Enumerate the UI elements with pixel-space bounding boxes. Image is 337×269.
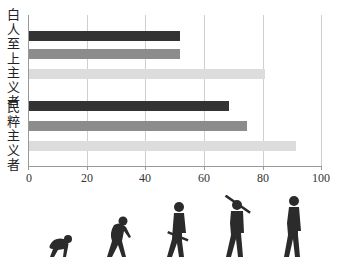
x-tick — [263, 166, 264, 170]
x-tick — [321, 166, 322, 170]
x-tick-label: 20 — [81, 171, 93, 186]
x-tick — [204, 166, 205, 170]
group-label-populists: 民粹主义者 — [6, 100, 20, 173]
bar-group2-series3 — [29, 141, 296, 151]
y-axis — [28, 15, 29, 167]
bar-group1-series2 — [29, 49, 180, 59]
bar-chart: 白人至上主义者 民粹主义者 0 20 40 60 80 100 — [0, 0, 337, 190]
x-tick-label: 100 — [312, 171, 330, 186]
bar-group1-series3 — [29, 69, 265, 79]
hominid-with-club-icon — [223, 195, 253, 259]
x-tick — [145, 166, 146, 170]
x-axis — [28, 166, 322, 167]
bar-group1-series1 — [29, 31, 180, 41]
x-tick — [28, 166, 29, 170]
x-tick-label: 0 — [26, 171, 32, 186]
bar-group2-series2 — [29, 121, 247, 131]
group-label-white-supremacists: 白人至上主义者 — [6, 8, 20, 110]
evolution-illustration — [0, 190, 337, 269]
modern-human-icon — [282, 195, 304, 259]
ape-walking-icon — [104, 215, 134, 259]
x-tick-label: 40 — [139, 171, 151, 186]
early-hominid-icon — [166, 201, 190, 259]
x-tick — [87, 166, 88, 170]
gridline — [321, 15, 322, 167]
x-tick-label: 80 — [257, 171, 269, 186]
bar-group2-series1 — [29, 101, 229, 111]
x-tick-label: 60 — [198, 171, 210, 186]
ape-crouching-icon — [46, 233, 74, 259]
